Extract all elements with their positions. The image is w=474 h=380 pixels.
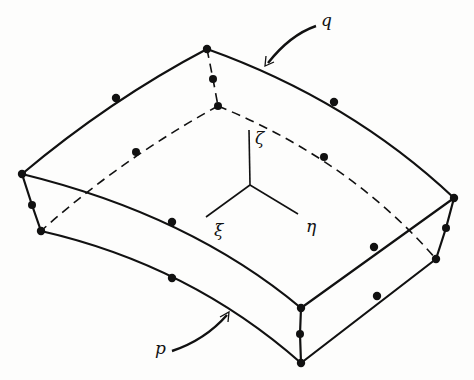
edge-top-left: [22, 49, 207, 174]
edge-bottom-front-right: [301, 259, 436, 363]
label-p: p: [155, 340, 166, 357]
p-leader: [172, 315, 227, 351]
hexahedral-element-drawing: [0, 0, 474, 380]
edge-top-right: [207, 49, 454, 198]
zeta-axis: [249, 130, 250, 185]
xi-axis: [206, 185, 250, 217]
edge-bottom-front-left: [41, 231, 301, 363]
label-q: q: [321, 12, 332, 29]
hidden-edge-back-left: [41, 106, 218, 231]
q-leader: [268, 26, 316, 63]
label-xi: ξ: [214, 222, 223, 239]
label-zeta: ζ: [255, 130, 264, 147]
element-diagram: q p ζ ξ η: [0, 0, 474, 380]
label-eta: η: [306, 218, 316, 235]
eta-axis: [250, 185, 298, 214]
nodes: [18, 45, 458, 367]
edge-top-front-left: [22, 174, 301, 308]
